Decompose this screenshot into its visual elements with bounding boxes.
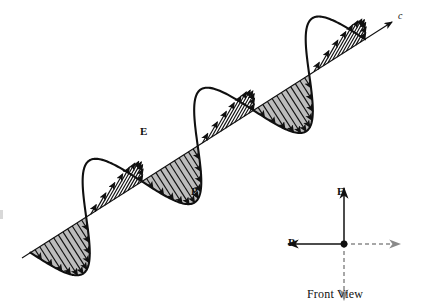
e-field-lobes xyxy=(30,75,312,276)
inset-b-field-label: B xyxy=(288,237,295,248)
e-field-label: E xyxy=(140,126,147,137)
propagation-speed-label: c xyxy=(398,11,402,21)
b-field-label: B xyxy=(191,186,198,197)
inset-e-field-label: E xyxy=(337,186,344,197)
em-wave-figure: E B c E B Front View xyxy=(0,0,426,308)
inset-origin-dot xyxy=(341,241,348,248)
em-wave-illustration xyxy=(0,0,426,308)
inset-caption: Front View xyxy=(307,288,363,300)
propagation-axis xyxy=(22,22,392,258)
front-view-inset xyxy=(288,188,400,300)
